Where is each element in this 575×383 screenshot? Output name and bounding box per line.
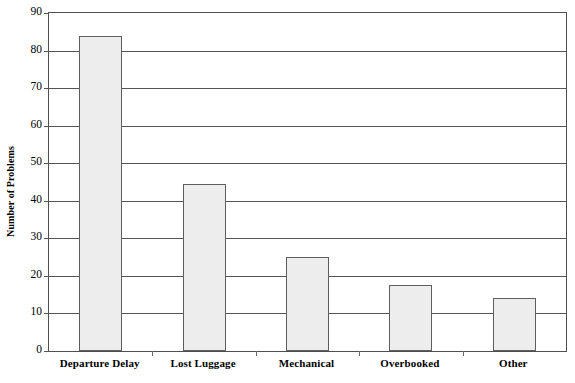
x-axis-category-label: Other: [499, 357, 528, 369]
x-axis-tick-mark: [463, 351, 464, 356]
y-axis-tick-mark: [44, 313, 49, 314]
plot-area: [48, 12, 567, 352]
bar-chart: Number of Problems 0102030405060708090 D…: [0, 0, 575, 383]
y-axis-tick-mark: [44, 276, 49, 277]
y-axis-tick-label: 90: [16, 6, 42, 17]
y-axis-tick-mark: [44, 13, 49, 14]
bar: [183, 184, 226, 351]
bar: [389, 285, 432, 351]
x-axis-category-label: Overbooked: [380, 357, 439, 369]
x-axis-category-label: Mechanical: [279, 357, 334, 369]
y-axis-tick-label: 10: [16, 306, 42, 317]
gridline: [49, 201, 566, 202]
gridline: [49, 51, 566, 52]
bar: [79, 36, 122, 351]
y-axis-tick-mark: [44, 201, 49, 202]
x-axis-tick-mark: [256, 351, 257, 356]
gridline: [49, 88, 566, 89]
y-axis-tick-label: 50: [16, 156, 42, 167]
gridline: [49, 126, 566, 127]
y-axis-tick-labels: 0102030405060708090: [12, 0, 42, 383]
gridline: [49, 163, 566, 164]
bar: [493, 298, 536, 351]
y-axis-tick-mark: [44, 88, 49, 89]
y-axis-tick-mark: [44, 163, 49, 164]
y-axis-tick-label: 20: [16, 269, 42, 280]
y-axis-tick-mark: [44, 126, 49, 127]
y-axis-tick-mark: [44, 51, 49, 52]
x-axis-tick-mark: [359, 351, 360, 356]
y-axis-tick-label: 0: [16, 344, 42, 355]
y-axis-tick-label: 40: [16, 194, 42, 205]
bar: [286, 257, 329, 351]
x-axis-category-label: Lost Luggage: [171, 357, 236, 369]
y-axis-tick-mark: [44, 351, 49, 352]
y-axis-tick-mark: [44, 238, 49, 239]
x-axis-tick-mark: [152, 351, 153, 356]
y-axis-tick-label: 80: [16, 44, 42, 55]
y-axis-tick-label: 60: [16, 119, 42, 130]
y-axis-tick-label: 30: [16, 231, 42, 242]
y-axis-tick-label: 70: [16, 81, 42, 92]
x-axis-category-label: Departure Delay: [60, 357, 140, 369]
gridline: [49, 238, 566, 239]
